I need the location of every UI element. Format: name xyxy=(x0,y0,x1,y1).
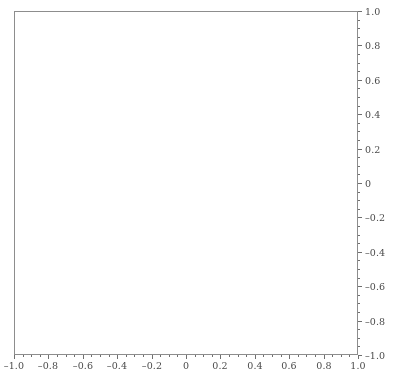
y-tick-minor xyxy=(358,123,360,124)
x-tick-minor xyxy=(332,355,333,357)
y-tick xyxy=(358,114,362,115)
y-tick-minor xyxy=(358,209,360,210)
y-tick-minor xyxy=(358,200,360,201)
x-tick-minor xyxy=(66,355,67,357)
x-tick xyxy=(83,355,84,359)
x-tick-minor xyxy=(143,355,144,357)
y-tick-minor xyxy=(358,226,360,227)
x-tick-label: –0.2 xyxy=(142,360,162,371)
y-tick-label: –0.8 xyxy=(365,316,385,327)
x-tick-label: –0.8 xyxy=(38,360,58,371)
x-tick-label: 0.2 xyxy=(212,360,227,371)
x-tick-label: 0.6 xyxy=(281,360,296,371)
y-tick-label: –0.4 xyxy=(365,247,385,258)
x-tick-label: 0.8 xyxy=(316,360,331,371)
y-tick xyxy=(358,217,362,218)
y-tick-minor xyxy=(358,63,360,64)
y-tick-label: 0.4 xyxy=(365,109,380,120)
y-tick-minor xyxy=(358,295,360,296)
x-tick-label: 0.4 xyxy=(247,360,262,371)
plot-frame xyxy=(14,11,358,355)
y-tick-minor xyxy=(358,106,360,107)
scatter-plot-figure: –1.0–0.8–0.6–0.4–0.200.20.40.60.81.0 –1.… xyxy=(0,0,394,381)
y-tick-label: –0.2 xyxy=(365,212,385,223)
x-tick-minor xyxy=(74,355,75,357)
y-tick xyxy=(358,11,362,12)
x-tick-minor xyxy=(100,355,101,357)
x-tick xyxy=(152,355,153,359)
y-tick-minor xyxy=(358,71,360,72)
x-tick-minor xyxy=(349,355,350,357)
y-tick-label: –1.0 xyxy=(365,350,385,361)
x-tick-minor xyxy=(195,355,196,357)
x-tick xyxy=(186,355,187,359)
x-tick-label: 0 xyxy=(183,360,189,371)
y-tick-minor xyxy=(358,37,360,38)
x-tick-minor xyxy=(31,355,32,357)
x-tick-label: 1.0 xyxy=(350,360,365,371)
x-tick-label: –0.6 xyxy=(73,360,93,371)
y-tick-minor xyxy=(358,338,360,339)
x-tick-minor xyxy=(91,355,92,357)
y-tick-minor xyxy=(358,166,360,167)
y-tick-minor xyxy=(358,131,360,132)
y-tick-minor xyxy=(358,157,360,158)
x-tick xyxy=(14,355,15,359)
y-tick-minor xyxy=(358,88,360,89)
y-tick-label: 0.2 xyxy=(365,144,380,155)
x-tick-minor xyxy=(177,355,178,357)
x-tick-minor xyxy=(40,355,41,357)
y-tick-minor xyxy=(358,174,360,175)
x-tick-minor xyxy=(169,355,170,357)
y-tick xyxy=(358,355,362,356)
x-tick-minor xyxy=(315,355,316,357)
x-tick-minor xyxy=(306,355,307,357)
y-tick xyxy=(358,80,362,81)
y-tick-minor xyxy=(358,346,360,347)
y-tick xyxy=(358,252,362,253)
y-tick xyxy=(358,45,362,46)
y-tick-label: 0.6 xyxy=(365,75,380,86)
y-tick-minor xyxy=(358,278,360,279)
y-tick-minor xyxy=(358,20,360,21)
y-tick-minor xyxy=(358,235,360,236)
x-tick-label: –1.0 xyxy=(4,360,24,371)
x-tick xyxy=(48,355,49,359)
x-tick xyxy=(255,355,256,359)
x-tick-minor xyxy=(238,355,239,357)
y-tick-minor xyxy=(358,97,360,98)
x-tick-minor xyxy=(23,355,24,357)
x-tick-minor xyxy=(229,355,230,357)
y-tick-minor xyxy=(358,28,360,29)
y-tick xyxy=(358,183,362,184)
y-tick-minor xyxy=(358,312,360,313)
x-tick-label: –0.4 xyxy=(107,360,127,371)
y-tick-minor xyxy=(358,54,360,55)
x-tick-minor xyxy=(246,355,247,357)
y-tick-minor xyxy=(358,140,360,141)
x-tick-minor xyxy=(203,355,204,357)
y-tick-minor xyxy=(358,192,360,193)
x-tick-minor xyxy=(160,355,161,357)
y-tick xyxy=(358,321,362,322)
x-tick-minor xyxy=(212,355,213,357)
x-tick xyxy=(289,355,290,359)
x-tick xyxy=(220,355,221,359)
x-tick-minor xyxy=(263,355,264,357)
y-tick-minor xyxy=(358,329,360,330)
x-tick-minor xyxy=(126,355,127,357)
y-tick-minor xyxy=(358,269,360,270)
x-tick-minor xyxy=(341,355,342,357)
x-tick xyxy=(324,355,325,359)
x-tick-minor xyxy=(109,355,110,357)
y-tick xyxy=(358,149,362,150)
x-tick-minor xyxy=(57,355,58,357)
x-tick-minor xyxy=(272,355,273,357)
y-tick xyxy=(358,286,362,287)
y-tick-minor xyxy=(358,260,360,261)
y-tick-label: 0.8 xyxy=(365,40,380,51)
x-tick xyxy=(117,355,118,359)
x-tick-minor xyxy=(134,355,135,357)
x-tick-minor xyxy=(298,355,299,357)
y-tick-label: –0.6 xyxy=(365,281,385,292)
